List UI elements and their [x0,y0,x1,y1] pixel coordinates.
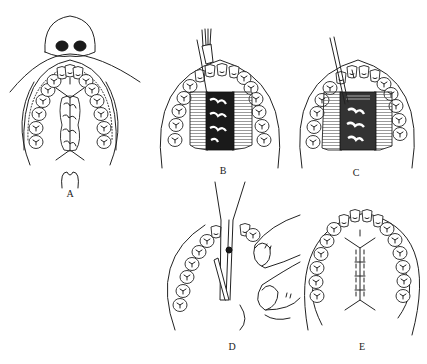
panel-d [167,182,300,330]
panel-label-c: C [353,167,360,178]
panel-c [300,37,415,168]
panel-e [305,210,420,336]
panel-label-e: E [359,341,365,352]
nostril-right [74,41,86,51]
palate-surgery-diagram [0,0,427,364]
panel-b [160,29,280,168]
nostril-left [56,41,68,51]
panel-label-a: A [66,188,73,199]
panel-a [10,16,140,188]
panel-label-b: B [220,165,227,176]
panel-label-d: D [228,341,235,352]
